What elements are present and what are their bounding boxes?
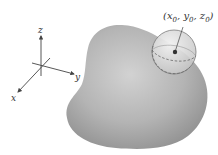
point-marker — [173, 50, 177, 54]
point-label: (x0, y0, z0) — [163, 10, 214, 24]
z-axis-label: z — [37, 25, 43, 35]
y-axis — [32, 63, 74, 74]
coordinate-axes: z y x — [11, 25, 81, 103]
y-axis-label: y — [74, 72, 81, 82]
x-axis-label: x — [11, 93, 16, 103]
paren-close: ) — [209, 10, 214, 21]
solid-region-diagram: (x0, y0, z0) z y x — [0, 0, 218, 155]
